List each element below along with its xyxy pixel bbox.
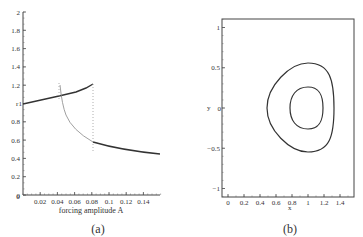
x-axis-ticks-a: 00.020.040.060.080.10.120.14 [16,192,160,206]
y-tick-label: −0.5 [207,145,220,153]
y-tick-label: 1 [19,100,23,108]
caption-a: (a) [91,222,104,236]
caption-b: (b) [283,222,297,236]
lower-branch-line [93,142,160,154]
figure: 00.20.40.60.811.21.41.61.82 00.020.040.0… [0,0,363,236]
x-tick-label: 0 [16,193,20,201]
y-tick-label: 0.2 [11,173,20,181]
y-tick-label: 1.8 [11,27,20,35]
x-tick-label: 0.08 [86,198,99,206]
y-tick-label: 0.8 [11,118,20,126]
y-tick-label: 0.4 [11,155,20,163]
unstable-branch-line [60,85,93,142]
y-tick-label: 0.5 [211,64,220,72]
y-tick-label: 0.6 [11,137,20,145]
x-tick-label: 0.2 [240,199,249,207]
x-tick-label: 0.6 [272,199,281,207]
y-tick-label: 0 [218,105,222,113]
x-tick-label: 0.04 [51,198,64,206]
y-tick-label: 1.4 [11,63,20,71]
y-tick-label: 1.2 [11,82,20,90]
x-tick-label: 1.2 [320,199,329,207]
x-tick-label: 0.1 [105,198,114,206]
y-tick-label: −1 [213,185,221,193]
inner-orbit [290,87,323,129]
x-tick-label: 0.12 [120,198,133,206]
upper-branch-line [23,84,93,104]
outer-orbit [267,63,334,152]
y-tick-label: 2 [17,9,21,17]
x-axis-label-b: x [288,204,292,212]
x-tick-label: 0 [226,199,230,207]
x-tick-label: 0.4 [256,199,265,207]
x-tick-label: 1 [306,199,310,207]
x-tick-label: 0.02 [34,198,47,206]
panel-a: 00.20.40.60.811.21.41.61.82 00.020.040.0… [11,9,160,237]
x-axis-label-a: forcing amplitude A [59,206,124,215]
y-tick-label: 1.6 [11,45,20,53]
x-tick-label: 1.4 [336,199,345,207]
y-tick-label: 1 [217,24,221,32]
y-axis-label-b: y [207,104,211,112]
panel-b: −1−0.500.51 00.20.40.60.811.21.4 x y (b) [207,19,354,236]
x-tick-label: 0.14 [137,198,150,206]
x-tick-label: 0.06 [68,198,81,206]
